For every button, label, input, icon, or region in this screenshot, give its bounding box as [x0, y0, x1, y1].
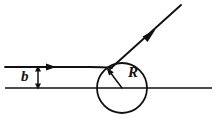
incoming-ray-arrowhead-icon: [46, 63, 56, 70]
diagram-canvas: [0, 0, 215, 120]
impact-parameter-label: b: [21, 69, 29, 84]
scattering-diagram: b R: [0, 0, 215, 120]
outgoing-ray-arrowhead-icon: [143, 30, 156, 43]
radius-arrow-line: [110, 72, 122, 88]
radius-label: R: [128, 65, 138, 80]
